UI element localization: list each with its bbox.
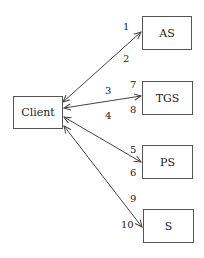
node-tgs-label: TGS [156,92,180,105]
message-label-10: 10 [121,220,134,230]
edge-client-ps [64,117,141,162]
message-label-6: 6 [130,168,136,178]
node-as: AS [142,16,192,50]
message-label-2: 2 [123,54,129,64]
message-label-8: 8 [130,105,136,115]
node-client: Client [13,96,63,129]
node-s: S [143,209,194,243]
node-s-label: S [165,220,173,233]
node-tgs: TGS [142,81,193,115]
node-ps: PS [142,145,193,179]
diagram: Client AS TGS PS S 1 2 3 4 7 8 5 6 9 10 [0,0,204,258]
message-label-7: 7 [130,80,136,90]
message-label-5: 5 [130,145,136,155]
message-label-1: 1 [123,22,129,32]
edge-client-as [63,32,141,102]
node-client-label: Client [21,106,54,119]
message-label-9: 9 [130,194,136,204]
node-as-label: AS [159,27,174,40]
node-ps-label: PS [160,156,175,169]
message-label-3: 3 [105,86,111,96]
message-label-4: 4 [105,111,111,121]
